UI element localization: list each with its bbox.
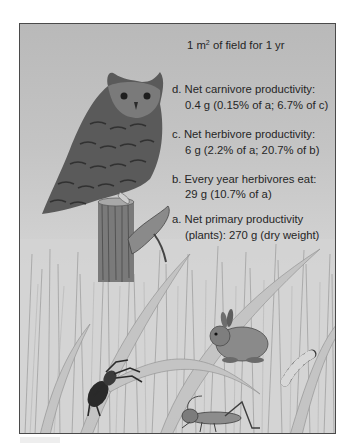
- level-a-value: (plants): 270 g (dry weight): [172, 229, 319, 242]
- level-b-label: b. Every year herbivores eat: 29 g (10.7…: [172, 173, 316, 201]
- caption-prefix: 1 m: [187, 39, 206, 51]
- level-b-title: b. Every year herbivores eat:: [172, 173, 316, 186]
- area-time-caption: 1 m2 of field for 1 yr: [187, 39, 284, 52]
- level-d-title: d. Net carnivore productivity:: [172, 83, 328, 96]
- figure-frame: 1 m2 of field for 1 yr d. Net carnivore …: [19, 23, 336, 434]
- level-d-value: 0.4 g (0.15% of a; 6.7% of c): [172, 99, 328, 112]
- owl: [42, 72, 163, 214]
- level-c-label: c. Net herbivore productivity: 6 g (2.2%…: [172, 128, 319, 157]
- caption-remnant: [20, 437, 60, 443]
- grass-field: [20, 239, 336, 434]
- level-c-value: 6 g (2.2% of a; 20.7% of b): [172, 144, 319, 157]
- level-a-label: a. Net primary productivity (plants): 27…: [172, 213, 319, 242]
- level-d-label: d. Net carnivore productivity: 0.4 g (0.…: [172, 83, 328, 112]
- level-c-title: c. Net herbivore productivity:: [172, 128, 319, 141]
- caption-suffix: of field for 1 yr: [210, 39, 285, 51]
- level-b-value: 29 g (10.7% of a): [172, 188, 316, 201]
- level-a-title: a. Net primary productivity: [172, 213, 319, 226]
